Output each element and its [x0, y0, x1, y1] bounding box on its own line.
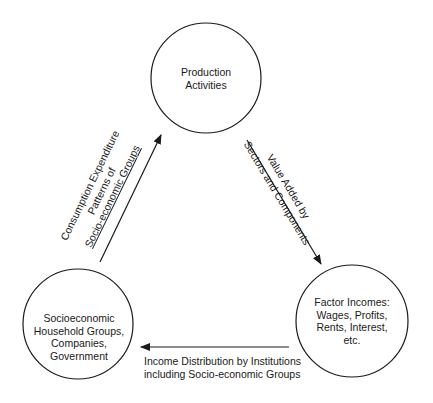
- production-node-label: Production Activities: [156, 66, 256, 91]
- household-line-2: Household Groups,: [24, 325, 134, 338]
- income-line-1: Income Distribution by Institutions: [144, 355, 314, 368]
- income-line-2: including Socio-economic Groups: [144, 368, 314, 381]
- household-node-label: Socioeconomic Household Groups, Companie…: [24, 312, 134, 362]
- production-line-2: Activities: [156, 79, 256, 92]
- factor-line-1: Factor Incomes:: [300, 296, 404, 309]
- household-line-3: Companies,: [24, 337, 134, 350]
- factor-node-label: Factor Incomes: Wages, Profits, Rents, I…: [300, 296, 404, 346]
- factor-line-3: Rents, Interest,: [300, 321, 404, 334]
- income-distribution-label: Income Distribution by Institutions incl…: [144, 355, 314, 380]
- factor-line-4: etc.: [300, 334, 404, 347]
- household-line-4: Government: [24, 350, 134, 363]
- production-line-1: Production: [156, 66, 256, 79]
- factor-line-2: Wages, Profits,: [300, 309, 404, 322]
- household-line-1: Socioeconomic: [24, 312, 134, 325]
